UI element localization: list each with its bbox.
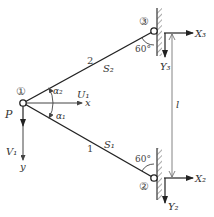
dimension-l-label: l (176, 99, 179, 110)
member-2-force-label: S₂ (103, 63, 114, 74)
y-axis-label: y (19, 161, 26, 172)
alpha2-label: α₂ (53, 86, 63, 96)
x3-label: X₃ (194, 28, 206, 39)
member-2-label: 2 (87, 55, 93, 66)
member-1 (23, 103, 154, 178)
wall2-angle-label: 60° (135, 154, 151, 164)
y3-label: Y₃ (160, 61, 171, 72)
angle-arc-alpha1 (49, 103, 53, 118)
u1-label: U₁ (77, 89, 89, 100)
node-3 (151, 28, 157, 34)
node-1-label: ① (16, 85, 26, 98)
truss-diagram: ① ③ ② P x y U₁ V₁ α₂ α₁ 2 S₂ 1 S₁ 60° 60… (0, 0, 214, 217)
wall3-angle-label: 60° (135, 44, 151, 54)
node-2-label: ② (139, 180, 149, 193)
node-1 (20, 100, 26, 106)
angle-arc-wall2 (142, 164, 154, 171)
node-3-label: ③ (139, 15, 149, 28)
wall-support-2 (157, 148, 162, 200)
node-2 (151, 175, 157, 181)
member-1-force-label: S₁ (104, 139, 115, 150)
dimension-l (169, 34, 175, 177)
v1-label: V₁ (6, 146, 17, 157)
load-label-p: P (4, 108, 13, 121)
alpha1-label: α₁ (56, 111, 66, 121)
x2-label: X₂ (194, 173, 206, 184)
member-1-label: 1 (87, 143, 93, 154)
y2-label: Y₂ (168, 201, 179, 212)
wall-support-3 (157, 8, 162, 56)
